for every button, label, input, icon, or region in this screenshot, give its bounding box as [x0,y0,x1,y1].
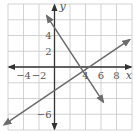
y-axis-label: y [59,0,67,13]
y-tick-label: 4 [45,30,51,41]
x-tick-label: −2 [32,70,47,81]
line-2 [4,40,130,125]
y-tick-label: 2 [45,46,51,57]
y-tick-label: −6 [37,109,52,120]
x-tick-label: 8 [113,70,119,81]
x-tick-label: 6 [98,70,104,81]
coordinate-plane: −4−246842−6 x y [0,0,134,133]
line-1 [47,16,104,102]
x-axis-label: x [126,69,133,82]
x-tick-label: −4 [16,70,31,81]
x-tick-label: 4 [82,70,88,81]
